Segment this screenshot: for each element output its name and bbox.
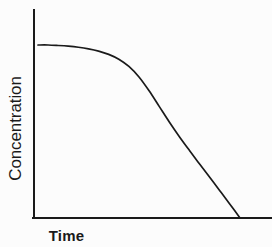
- chart-plot-area: [0, 0, 272, 247]
- concentration-decay-curve: [38, 45, 240, 218]
- chart-figure: Concentration Time: [0, 0, 272, 247]
